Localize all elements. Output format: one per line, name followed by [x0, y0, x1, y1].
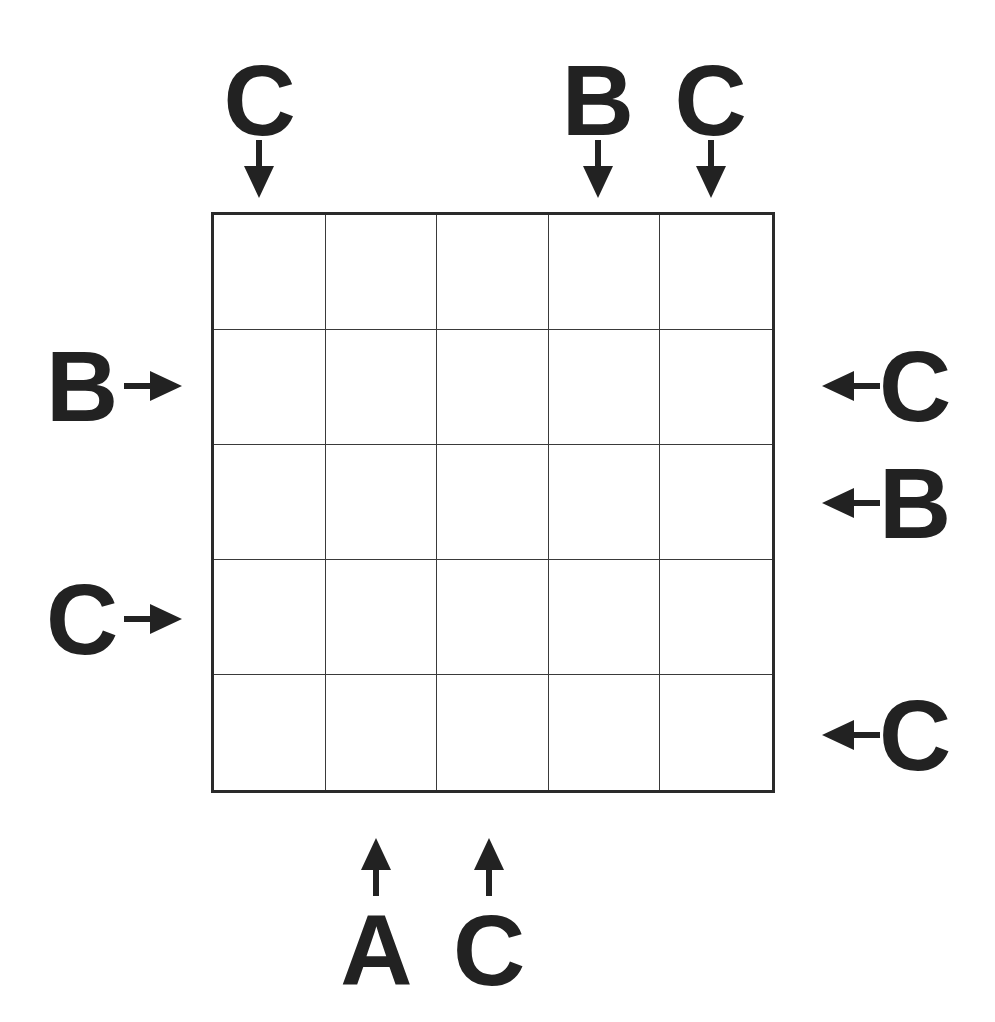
grid-cell-r1c1[interactable] — [214, 215, 326, 330]
grid-cell-r4c1[interactable] — [214, 560, 326, 675]
grid-cell-r2c1[interactable] — [214, 330, 326, 445]
clue-top-5: C — [675, 50, 747, 150]
arrow-down-icon — [694, 140, 728, 198]
grid-cell-r5c5[interactable] — [660, 675, 772, 790]
arrow-left-icon — [822, 486, 880, 520]
puzzle-grid — [211, 212, 775, 793]
arrow-up-icon — [472, 838, 506, 896]
arrow-up-icon — [359, 838, 393, 896]
clue-right-3: B — [879, 453, 951, 553]
clue-left-2: B — [46, 336, 118, 436]
clue-left-4: C — [46, 569, 118, 669]
grid-cell-r5c1[interactable] — [214, 675, 326, 790]
grid-cell-r2c3[interactable] — [437, 330, 549, 445]
grid-cell-r1c2[interactable] — [326, 215, 438, 330]
grid-cell-r4c3[interactable] — [437, 560, 549, 675]
grid-cell-r3c3[interactable] — [437, 445, 549, 560]
grid-cell-r4c5[interactable] — [660, 560, 772, 675]
grid-cell-r5c4[interactable] — [549, 675, 661, 790]
grid-cell-r2c4[interactable] — [549, 330, 661, 445]
grid-cell-r2c2[interactable] — [326, 330, 438, 445]
arrow-down-icon — [242, 140, 276, 198]
grid-cell-r3c2[interactable] — [326, 445, 438, 560]
arrow-left-icon — [822, 718, 880, 752]
grid-cell-r3c5[interactable] — [660, 445, 772, 560]
grid-cell-r1c4[interactable] — [549, 215, 661, 330]
clue-top-4: B — [562, 50, 634, 150]
clue-right-2: C — [879, 336, 951, 436]
arrow-right-icon — [124, 602, 182, 636]
grid-cell-r3c1[interactable] — [214, 445, 326, 560]
arrow-right-icon — [124, 369, 182, 403]
grid-cell-r2c5[interactable] — [660, 330, 772, 445]
grid-cell-r4c2[interactable] — [326, 560, 438, 675]
grid-cell-r1c5[interactable] — [660, 215, 772, 330]
clue-bottom-2: A — [340, 900, 412, 1000]
grid-cell-r5c3[interactable] — [437, 675, 549, 790]
grid-cell-r3c4[interactable] — [549, 445, 661, 560]
clue-bottom-3: C — [453, 900, 525, 1000]
grid-cell-r1c3[interactable] — [437, 215, 549, 330]
grid-cell-r5c2[interactable] — [326, 675, 438, 790]
arrow-down-icon — [581, 140, 615, 198]
clue-right-5: C — [879, 685, 951, 785]
arrow-left-icon — [822, 369, 880, 403]
grid-cell-r4c4[interactable] — [549, 560, 661, 675]
clue-top-1: C — [223, 50, 295, 150]
